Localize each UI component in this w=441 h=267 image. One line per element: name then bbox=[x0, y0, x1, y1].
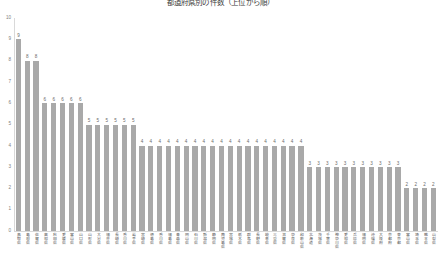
bar-column[interactable]: 4 bbox=[261, 18, 270, 231]
bar-column[interactable]: 4 bbox=[288, 18, 297, 231]
bar-rect[interactable] bbox=[245, 146, 250, 231]
bar-column[interactable]: 4 bbox=[208, 18, 217, 231]
bar-rect[interactable] bbox=[139, 146, 144, 231]
bar-column[interactable]: 4 bbox=[199, 18, 208, 231]
bar-column[interactable]: 5 bbox=[85, 18, 94, 231]
bar-column[interactable]: 2 bbox=[429, 18, 438, 231]
x-axis-label-text: 群馬県 bbox=[246, 233, 250, 267]
bar-column[interactable]: 4 bbox=[182, 18, 191, 231]
bar-rect[interactable] bbox=[342, 167, 347, 231]
bar-rect[interactable] bbox=[334, 167, 339, 231]
bar-rect[interactable] bbox=[404, 188, 409, 231]
bar-column[interactable]: 3 bbox=[349, 18, 358, 231]
bar-column[interactable]: 3 bbox=[314, 18, 323, 231]
bar-rect[interactable] bbox=[42, 103, 47, 231]
bar-column[interactable]: 2 bbox=[402, 18, 411, 231]
bar-column[interactable]: 4 bbox=[173, 18, 182, 231]
bar-column[interactable]: 4 bbox=[217, 18, 226, 231]
bar-column[interactable]: 5 bbox=[111, 18, 120, 231]
bar-column[interactable]: 6 bbox=[58, 18, 67, 231]
bar-column[interactable]: 6 bbox=[76, 18, 85, 231]
bar-rect[interactable] bbox=[131, 125, 136, 232]
bar-rect[interactable] bbox=[387, 167, 392, 231]
bar-rect[interactable] bbox=[228, 146, 233, 231]
bar-rect[interactable] bbox=[210, 146, 215, 231]
bar-rect[interactable] bbox=[298, 146, 303, 231]
bar-rect[interactable] bbox=[166, 146, 171, 231]
bar-column[interactable]: 5 bbox=[93, 18, 102, 231]
bar-column[interactable]: 3 bbox=[394, 18, 403, 231]
bar-rect[interactable] bbox=[122, 125, 127, 232]
bar-column[interactable]: 3 bbox=[332, 18, 341, 231]
bar-column[interactable]: 4 bbox=[146, 18, 155, 231]
bar-rect[interactable] bbox=[254, 146, 259, 231]
bar-column[interactable]: 5 bbox=[129, 18, 138, 231]
bar-rect[interactable] bbox=[422, 188, 427, 231]
bar-column[interactable]: 4 bbox=[297, 18, 306, 231]
bar-rect[interactable] bbox=[369, 167, 374, 231]
bar-column[interactable]: 3 bbox=[367, 18, 376, 231]
bar-rect[interactable] bbox=[16, 39, 21, 231]
bar-column[interactable]: 3 bbox=[305, 18, 314, 231]
bar-value-label: 5 bbox=[105, 119, 108, 124]
bar-rect[interactable] bbox=[431, 188, 436, 231]
bar-rect[interactable] bbox=[148, 146, 153, 231]
bar-rect[interactable] bbox=[86, 125, 91, 232]
bar-rect[interactable] bbox=[237, 146, 242, 231]
bar-column[interactable]: 4 bbox=[270, 18, 279, 231]
bar-column[interactable]: 2 bbox=[411, 18, 420, 231]
bar-rect[interactable] bbox=[33, 61, 38, 231]
bar-rect[interactable] bbox=[360, 167, 365, 231]
bar-rect[interactable] bbox=[95, 125, 100, 232]
bar-rect[interactable] bbox=[51, 103, 56, 231]
bar-column[interactable]: 8 bbox=[32, 18, 41, 231]
bar-column[interactable]: 4 bbox=[235, 18, 244, 231]
x-axis-label-text: 秋田県 bbox=[52, 233, 56, 267]
bar-column[interactable]: 5 bbox=[120, 18, 129, 231]
bar-rect[interactable] bbox=[316, 167, 321, 231]
bar-column[interactable]: 3 bbox=[358, 18, 367, 231]
bar-rect[interactable] bbox=[395, 167, 400, 231]
bar-column[interactable]: 4 bbox=[279, 18, 288, 231]
bar-rect[interactable] bbox=[263, 146, 268, 231]
bar-rect[interactable] bbox=[192, 146, 197, 231]
bar-rect[interactable] bbox=[201, 146, 206, 231]
bar-rect[interactable] bbox=[69, 103, 74, 231]
bar-rect[interactable] bbox=[281, 146, 286, 231]
bar-column[interactable]: 4 bbox=[138, 18, 147, 231]
bar-column[interactable]: 4 bbox=[191, 18, 200, 231]
bar-rect[interactable] bbox=[113, 125, 118, 232]
bar-column[interactable]: 6 bbox=[49, 18, 58, 231]
bar-column[interactable]: 6 bbox=[67, 18, 76, 231]
bar-rect[interactable] bbox=[325, 167, 330, 231]
bar-rect[interactable] bbox=[184, 146, 189, 231]
bar-column[interactable]: 4 bbox=[155, 18, 164, 231]
bar-rect[interactable] bbox=[157, 146, 162, 231]
bar-column[interactable]: 4 bbox=[252, 18, 261, 231]
bar-value-label: 4 bbox=[176, 140, 179, 145]
bar-rect[interactable] bbox=[175, 146, 180, 231]
bar-rect[interactable] bbox=[60, 103, 65, 231]
bar-rect[interactable] bbox=[219, 146, 224, 231]
bar-column[interactable]: 4 bbox=[164, 18, 173, 231]
bar-column[interactable]: 5 bbox=[102, 18, 111, 231]
bar-rect[interactable] bbox=[307, 167, 312, 231]
bar-column[interactable]: 6 bbox=[40, 18, 49, 231]
bar-column[interactable]: 3 bbox=[385, 18, 394, 231]
bar-column[interactable]: 9 bbox=[14, 18, 23, 231]
bar-rect[interactable] bbox=[78, 103, 83, 231]
bar-rect[interactable] bbox=[25, 61, 30, 231]
bar-rect[interactable] bbox=[289, 146, 294, 231]
bar-column[interactable]: 3 bbox=[341, 18, 350, 231]
bar-column[interactable]: 8 bbox=[23, 18, 32, 231]
bar-rect[interactable] bbox=[104, 125, 109, 232]
bar-column[interactable]: 3 bbox=[323, 18, 332, 231]
bar-rect[interactable] bbox=[378, 167, 383, 231]
bar-column[interactable]: 4 bbox=[226, 18, 235, 231]
bar-rect[interactable] bbox=[413, 188, 418, 231]
bar-column[interactable]: 2 bbox=[420, 18, 429, 231]
bar-column[interactable]: 3 bbox=[376, 18, 385, 231]
bar-column[interactable]: 4 bbox=[244, 18, 253, 231]
bar-rect[interactable] bbox=[272, 146, 277, 231]
bar-rect[interactable] bbox=[351, 167, 356, 231]
